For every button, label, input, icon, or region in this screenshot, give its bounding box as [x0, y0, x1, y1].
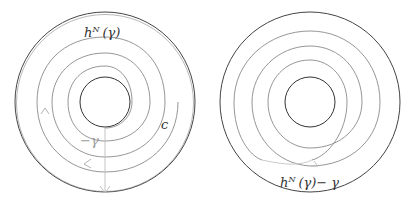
left-spiral-curve [37, 37, 178, 172]
left-annulus: hN(γ) −γ c [15, 12, 195, 193]
up-arrow-icon [41, 108, 49, 114]
annulus-diagram: hN(γ) −γ c hN(γ)− γ [0, 0, 415, 205]
right-outer-boundary [220, 12, 400, 192]
right-inner-hole [285, 77, 335, 127]
label-h-n-gamma-minus-gamma: hN(γ)− γ [280, 175, 339, 190]
label-c: c [161, 117, 169, 132]
right-spiral-curve [234, 31, 380, 166]
label-h-n-gamma: hN(γ) [84, 25, 120, 40]
right-annulus: hN(γ)− γ [220, 12, 400, 192]
right-diag-arrow-icon [311, 161, 318, 166]
label-neg-gamma: −γ [80, 133, 99, 148]
left-inner-hole [80, 77, 130, 127]
left-arrow-icon [84, 159, 91, 168]
